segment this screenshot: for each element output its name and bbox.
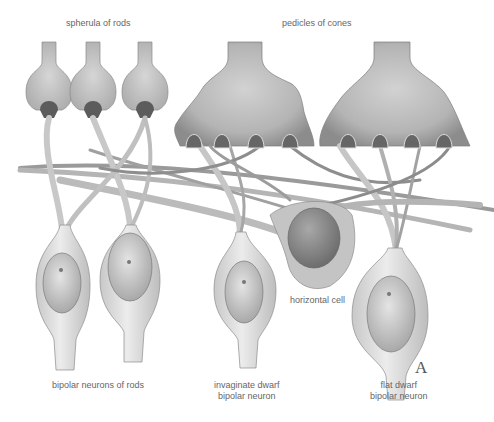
cone-pedicle-2	[320, 42, 470, 146]
invaginate-dwarf-bipolar-neuron	[214, 232, 276, 368]
label-line: bipolar neuron	[370, 391, 428, 402]
panel-letter: A	[415, 358, 427, 378]
label-horizontal-cell: horizontal cell	[290, 295, 345, 306]
label-flat-dwarf-bipolar: flat dwarf bipolar neuron	[370, 380, 428, 402]
label-line: flat dwarf	[370, 380, 428, 391]
cone-synaptic-triads	[186, 135, 452, 149]
label-bipolar-neurons-of-rods: bipolar neurons of rods	[52, 380, 144, 391]
rod-spherule-1	[26, 42, 72, 118]
rod-spherule-2	[70, 42, 116, 118]
label-invaginate-dwarf-bipolar: invaginate dwarf bipolar neuron	[214, 380, 280, 402]
label-pedicles-of-cones: pedicles of cones	[282, 18, 352, 29]
rod-spherule-3	[122, 42, 168, 118]
rod-bipolar-neuron-1	[36, 225, 90, 370]
label-line: invaginate dwarf	[214, 380, 280, 391]
label-line: bipolar neuron	[214, 391, 280, 402]
rod-bipolar-neuron-2	[100, 225, 160, 362]
horizontal-cell	[270, 201, 355, 288]
label-spherula-of-rods: spherula of rods	[66, 18, 131, 29]
cone-pedicle-1	[175, 42, 314, 146]
